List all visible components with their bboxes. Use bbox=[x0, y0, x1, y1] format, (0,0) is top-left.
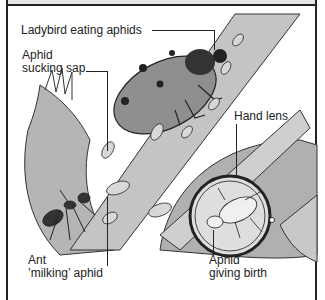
leader-ladybird bbox=[152, 30, 215, 31]
label-ladybird: Ladybird eating aphids bbox=[21, 24, 142, 37]
label-aphid-sap-2: sucking sap bbox=[22, 62, 85, 75]
leader-aphid-birth bbox=[213, 230, 214, 254]
label-ant-2: ’milking’ aphid bbox=[28, 267, 103, 280]
leader-aphid-sap bbox=[86, 71, 108, 72]
leader-hand-lens bbox=[236, 124, 237, 176]
aphid bbox=[99, 140, 117, 161]
label-aphid-birth-2: giving birth bbox=[209, 267, 267, 280]
leader-ant bbox=[107, 196, 108, 266]
label-hand-lens: Hand lens bbox=[234, 110, 288, 123]
